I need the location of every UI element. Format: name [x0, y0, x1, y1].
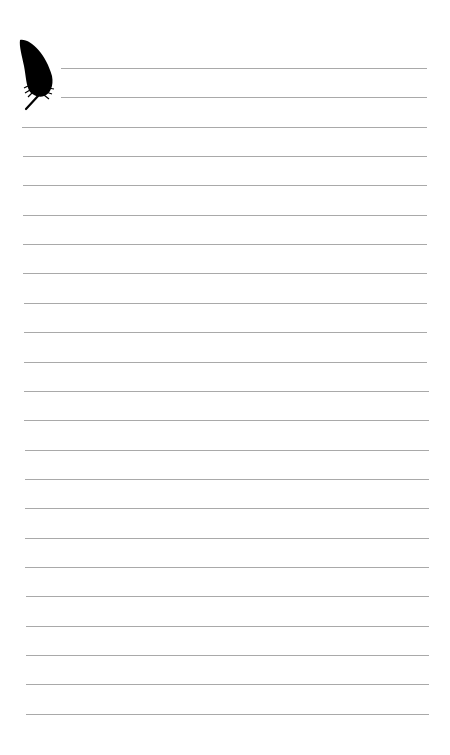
- ruled-line: [25, 479, 429, 480]
- ruled-line: [25, 567, 429, 568]
- ruled-line: [61, 97, 427, 98]
- ruled-line: [26, 684, 429, 685]
- ruled-line: [24, 362, 427, 363]
- lined-paper: [0, 0, 450, 755]
- ruled-line: [23, 273, 427, 274]
- ruled-line: [26, 626, 429, 627]
- ruled-line: [61, 68, 427, 69]
- ruled-line: [24, 303, 427, 304]
- ruled-line: [22, 127, 427, 128]
- ruled-line: [23, 185, 427, 186]
- ruled-line: [23, 215, 427, 216]
- ruled-line: [26, 714, 429, 715]
- ruled-line: [26, 596, 429, 597]
- ruled-line: [23, 244, 427, 245]
- feather-icon: [18, 36, 58, 112]
- ruled-line: [25, 450, 429, 451]
- ruled-line: [26, 655, 429, 656]
- ruled-line: [23, 156, 427, 157]
- ruled-line: [24, 420, 429, 421]
- ruled-line: [25, 538, 429, 539]
- ruled-line: [24, 332, 427, 333]
- ruled-line: [25, 508, 429, 509]
- ruled-line: [24, 391, 429, 392]
